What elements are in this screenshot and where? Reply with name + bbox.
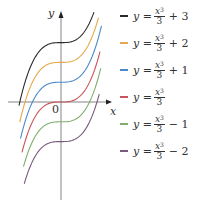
legend-swatch xyxy=(120,123,128,125)
y-axis-label: y xyxy=(48,7,54,20)
curve-line xyxy=(19,12,94,105)
legend-swatch xyxy=(120,69,128,71)
cubic-plot xyxy=(0,0,120,212)
origin-label: 0 xyxy=(52,103,59,116)
legend-equation: y = x33 − 2 xyxy=(133,142,189,161)
legend-equation: y = x33 − 1 xyxy=(133,115,189,134)
legend-swatch xyxy=(120,42,128,44)
legend-item: y = x33 + 2 xyxy=(120,31,189,55)
legend-item: y = x33 + 1 xyxy=(120,58,189,82)
legend-item: y = x33 + 3 xyxy=(120,4,189,28)
y-axis-arrow-icon xyxy=(59,11,64,18)
x-axis-arrow-icon xyxy=(106,100,112,105)
legend-item: y = x33 xyxy=(120,85,169,109)
curves xyxy=(19,12,102,184)
legend-swatch xyxy=(120,96,128,98)
legend-equation: y = x33 + 1 xyxy=(133,61,189,80)
curve-line xyxy=(24,94,99,184)
legend-equation: y = x33 xyxy=(133,88,169,107)
legend-equation: y = x33 + 3 xyxy=(133,7,189,26)
legend-equation: y = x33 + 2 xyxy=(133,34,189,53)
legend-item: y = x33 − 2 xyxy=(120,139,189,163)
x-axis-label: x xyxy=(110,105,116,118)
legend-item: y = x33 − 1 xyxy=(120,112,189,136)
legend-swatch xyxy=(120,15,128,17)
legend-swatch xyxy=(120,150,128,152)
